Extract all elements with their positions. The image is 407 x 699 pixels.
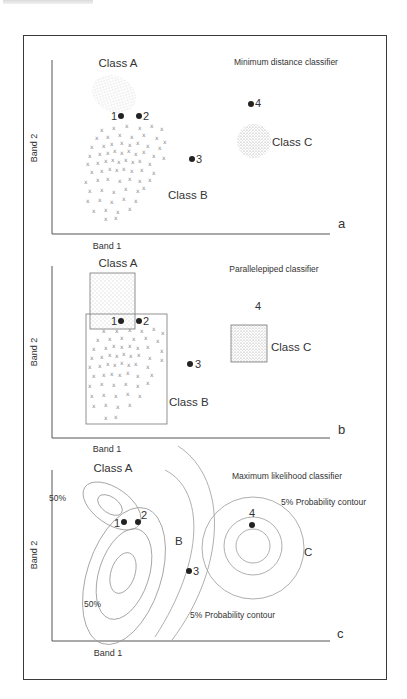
class-c-label: Class C (271, 341, 311, 353)
svg-text:x: x (136, 187, 140, 194)
svg-text:x: x (104, 157, 108, 164)
svg-text:x: x (120, 343, 124, 350)
svg-text:x: x (95, 134, 99, 141)
class-a-lower-contour-inner (105, 549, 141, 596)
svg-text:x: x (115, 352, 119, 359)
svg-text:x: x (104, 401, 108, 408)
svg-text:x: x (140, 166, 144, 173)
svg-text:x: x (90, 168, 94, 175)
x-axis-label: Band 1 (93, 241, 122, 251)
y-axis-label: Band 2 (29, 541, 39, 570)
point-label-2: 2 (143, 315, 149, 327)
point-label-4: 4 (255, 97, 261, 109)
svg-text:x: x (102, 327, 106, 334)
pixel-point-1 (118, 113, 124, 119)
contour-label-50-lower: 50% (84, 599, 101, 609)
svg-text:x: x (138, 124, 142, 131)
pixel-point-4 (248, 101, 254, 107)
svg-text:x: x (122, 195, 126, 202)
class-a-lower-contour-mid (86, 522, 163, 627)
class-a-upper-contour-inner (94, 490, 126, 519)
pixel-point-3 (186, 568, 192, 574)
pixel-point-4 (249, 522, 255, 528)
pixel-point-1 (118, 318, 124, 324)
svg-text:x: x (100, 126, 104, 133)
svg-text:x: x (106, 360, 110, 367)
svg-text:x: x (108, 351, 112, 358)
svg-text:x: x (124, 156, 128, 163)
svg-text:x: x (162, 154, 166, 161)
svg-text:x: x (86, 197, 90, 204)
svg-text:x: x (104, 414, 108, 421)
point-label-1: 1 (114, 517, 120, 529)
svg-text:x: x (136, 382, 140, 389)
svg-text:x: x (100, 167, 104, 174)
svg-text:x: x (104, 206, 108, 213)
svg-text:x: x (114, 214, 118, 221)
pixel-point-2 (136, 318, 142, 324)
svg-text:x: x (118, 177, 122, 184)
svg-text:x: x (144, 334, 148, 341)
svg-text:x: x (104, 215, 108, 222)
svg-text:x: x (134, 150, 138, 157)
svg-text:x: x (110, 140, 114, 147)
class-b-cluster: xxxxxx xxxxxxx xxxxxxxx xxxxxxxxxx xxxxx… (84, 122, 167, 222)
svg-text:x: x (148, 354, 152, 361)
svg-text:x: x (112, 124, 116, 131)
panel-letter: b (338, 422, 345, 437)
svg-text:x: x (113, 147, 117, 154)
svg-text:x: x (112, 381, 116, 388)
svg-text:x: x (88, 152, 92, 159)
svg-text:x: x (128, 401, 132, 408)
svg-text:x: x (100, 186, 104, 193)
svg-text:x: x (120, 149, 124, 156)
pixel-point-3 (189, 156, 195, 162)
svg-text:x: x (137, 351, 141, 358)
panel-c: Band 2 Band 1 Class A Maximum likelihood… (29, 446, 366, 658)
svg-text:x: x (152, 169, 156, 176)
svg-text:x: x (120, 334, 124, 341)
svg-text:x: x (92, 345, 96, 352)
svg-text:x: x (136, 139, 140, 146)
svg-text:x: x (150, 122, 154, 129)
class-b-label: Class B (168, 189, 208, 201)
class-a-label: Class A (99, 257, 138, 269)
svg-text:x: x (130, 133, 134, 140)
point-label-1: 1 (111, 315, 117, 327)
class-c-cluster (237, 124, 271, 158)
svg-text:x: x (126, 369, 130, 376)
svg-text:x: x (128, 175, 132, 182)
svg-text:x: x (128, 205, 132, 212)
svg-text:x: x (136, 344, 140, 351)
svg-text:x: x (92, 207, 96, 214)
svg-text:x: x (106, 175, 110, 182)
svg-text:x: x (160, 347, 164, 354)
svg-text:x: x (113, 361, 117, 368)
svg-text:x: x (122, 350, 126, 357)
classifier-figure: Band 2 Band 1 Class A Minimum distance c… (0, 0, 407, 699)
svg-text:x: x (96, 176, 100, 183)
point-label-4: 4 (255, 300, 261, 312)
svg-text:x: x (136, 372, 140, 379)
svg-text:x: x (106, 133, 110, 140)
svg-text:x: x (98, 150, 102, 157)
svg-text:x: x (86, 160, 90, 167)
class-b-cluster: xxxxxx xxxxxx xxxxxxxx xxxxxxxxx xxxxxxx… (88, 325, 165, 421)
contour-label-5pct-c: 5% Probability contour (281, 497, 366, 507)
panel-letter: c (337, 626, 344, 641)
svg-text:x: x (146, 343, 150, 350)
svg-text:x: x (90, 143, 94, 150)
class-b-label: Class B (169, 396, 209, 408)
svg-text:x: x (156, 337, 160, 344)
point-label-3: 3 (196, 153, 202, 165)
point-label-2: 2 (143, 110, 149, 122)
panel-title: Maximum likelihood classifier (232, 471, 342, 481)
svg-text:x: x (146, 379, 150, 386)
svg-text:x: x (106, 149, 110, 156)
x-axis-label: Band 1 (94, 648, 123, 658)
svg-text:x: x (129, 352, 133, 359)
svg-text:x: x (92, 402, 96, 409)
svg-text:x: x (142, 148, 146, 155)
svg-text:x: x (98, 196, 102, 203)
class-b-label: B (175, 535, 183, 547)
